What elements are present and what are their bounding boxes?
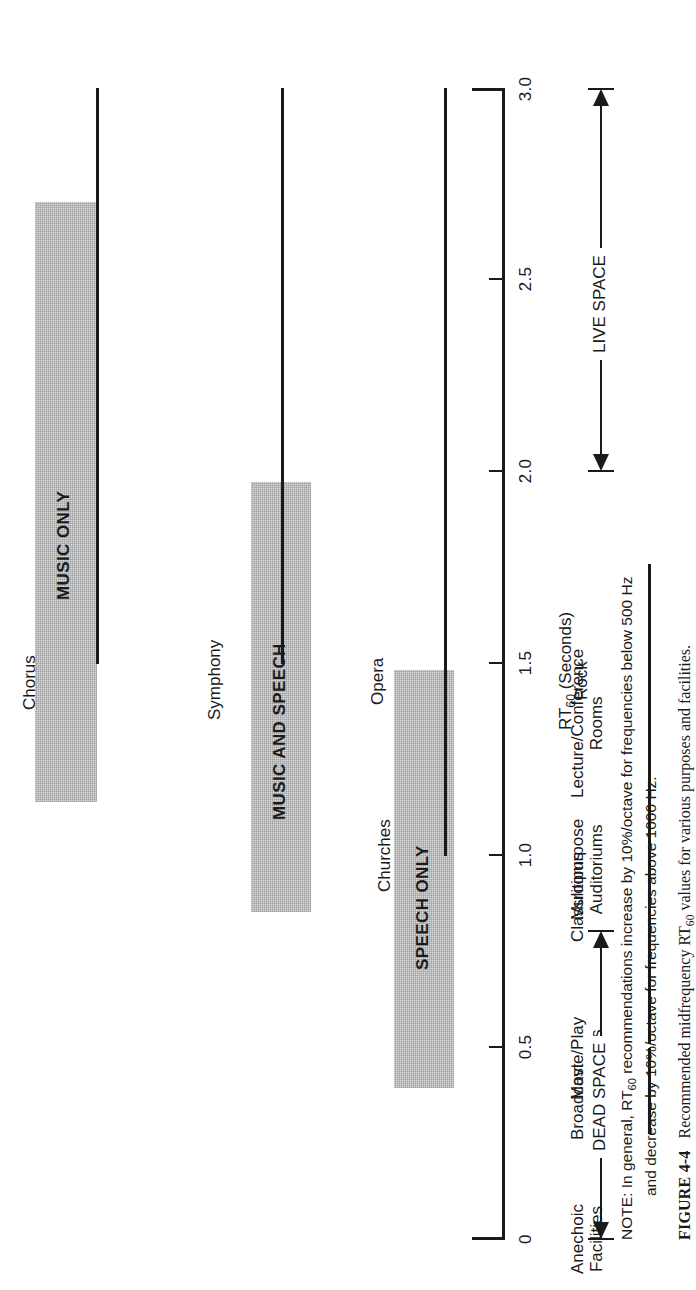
tick-label-2-5: 2.5 xyxy=(516,249,536,309)
tick-label-3-0: 3.0 xyxy=(516,59,536,119)
tick-label-2-0: 2.0 xyxy=(516,441,536,501)
rule-symphony xyxy=(281,88,284,664)
tick-label-0-5: 0.5 xyxy=(516,1017,536,1077)
band-speech-only-label: SPEECH ONLY xyxy=(413,845,433,970)
cat-label-symphony: Symphony xyxy=(205,640,224,720)
cat-label-multipurpose-line2: Auditoriums xyxy=(587,819,606,920)
cat-label-lecture-line1: Lecture/Conference xyxy=(568,649,587,798)
cat-label-classrooms-line1: Classrooms xyxy=(568,852,587,942)
tick-1-5 xyxy=(489,662,504,664)
note-line-1a: NOTE: In general, RT xyxy=(618,1090,635,1240)
tick-1-0 xyxy=(489,854,504,856)
dead-space-arrow-left xyxy=(593,1222,609,1239)
band-music-and-speech-label: MUSIC AND SPEECH xyxy=(270,643,290,820)
tick-2-0 xyxy=(489,470,504,472)
figure-caption: FIGURE 4-4 Recommended midfrequency RT60… xyxy=(676,645,696,1240)
tick-2-5 xyxy=(489,278,504,280)
tick-0 xyxy=(489,1238,504,1240)
cat-label-churches-line1: Churches xyxy=(375,819,394,892)
cat-label-anechoic-line1: Anechoic xyxy=(568,1204,587,1274)
dead-space-arrow-right xyxy=(593,931,609,948)
tick-0-5 xyxy=(489,1046,504,1048)
tick-label-1-5: 1.5 xyxy=(516,633,536,693)
live-space-arrow-left xyxy=(593,454,609,471)
cat-label-opera: Opera xyxy=(368,658,387,705)
rt60-axis-line xyxy=(502,88,505,1240)
figure-caption-text-a: Recommended midfrequency RT xyxy=(676,926,693,1138)
tick-label-0: 0 xyxy=(516,1209,536,1269)
band-music-only-label: MUSIC ONLY xyxy=(54,491,74,600)
live-space-label: LIVE SPACE xyxy=(590,248,610,360)
cat-label-lecture-line2: Rooms xyxy=(587,649,606,798)
cat-label-churches: Churches xyxy=(375,819,394,892)
cat-label-classrooms: Classrooms xyxy=(568,852,587,942)
note-line-2: and decrease by 10%/octave for frequenci… xyxy=(640,577,662,1240)
cat-label-lecture-conference: Lecture/Conference Rooms xyxy=(568,649,606,798)
note-block: NOTE: In general, RT60 recommendations i… xyxy=(616,577,663,1240)
rule-churches xyxy=(444,472,447,856)
figure-caption-text-b: values for various purposes and faciliti… xyxy=(676,645,693,915)
rule-chorus xyxy=(96,88,99,664)
tick-3-0 xyxy=(489,88,504,90)
note-line-1b: recommendations increase by 10%/octave f… xyxy=(618,577,635,1078)
cat-label-broadcast-line1: Broadcast xyxy=(568,1063,587,1140)
figure-caption-sub: 60 xyxy=(684,915,696,927)
live-space-arrow-right xyxy=(593,89,609,106)
note-line-1: NOTE: In general, RT60 recommendations i… xyxy=(616,577,640,1240)
dead-space-label: DEAD SPACE xyxy=(590,1036,610,1158)
figure-number: FIGURE 4-4 xyxy=(676,1150,693,1240)
cat-label-chorus: Chorus xyxy=(20,655,39,710)
note-line-1-sub: 60 xyxy=(626,1078,638,1090)
tick-label-1-0: 1.0 xyxy=(516,825,536,885)
